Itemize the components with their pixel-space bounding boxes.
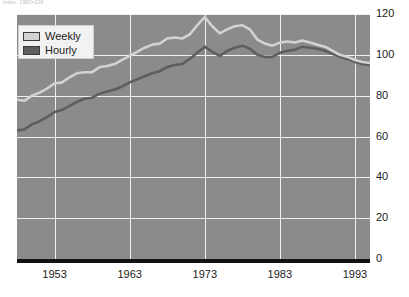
y-axis-tick-label: 80: [376, 90, 388, 101]
y-axis-tick-label: 0: [376, 253, 382, 264]
legend-label-hourly: Hourly: [45, 44, 77, 56]
x-axis-tick-label: 1963: [117, 268, 141, 280]
legend-swatch-hourly: [23, 46, 40, 55]
y-axis-tick-label: 40: [376, 171, 388, 182]
legend-item-hourly: Hourly: [23, 43, 89, 57]
x-axis-tick-label: 1973: [193, 268, 217, 280]
legend-item-weekly: Weekly: [23, 29, 89, 43]
chart-container: Index: 1982=100 020406080100120 19531963…: [0, 0, 409, 297]
x-axis-tick-label: 1953: [42, 268, 66, 280]
y-axis-tick-label: 60: [376, 131, 388, 142]
chart-legend: Weekly Hourly: [18, 25, 94, 59]
chart-note: Index: 1982=100: [3, 0, 43, 5]
legend-label-weekly: Weekly: [45, 30, 81, 42]
y-axis-tick-label: 20: [376, 212, 388, 223]
legend-swatch-weekly: [23, 32, 40, 41]
y-axis-tick-label: 120: [376, 8, 394, 19]
y-axis-tick-label: 100: [376, 49, 394, 60]
x-axis-tick-label: 1993: [343, 268, 367, 280]
x-axis-tick-label: 1983: [268, 268, 292, 280]
x-axis-line: [17, 259, 370, 263]
